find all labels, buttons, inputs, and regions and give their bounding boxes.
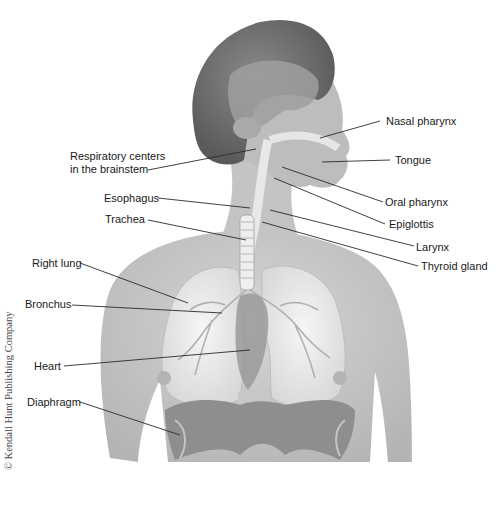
label-larynx: Larynx bbox=[416, 241, 449, 254]
cerebellum bbox=[233, 117, 261, 139]
label-trachea: Trachea bbox=[105, 213, 145, 226]
label-bronchus: Bronchus bbox=[25, 298, 71, 311]
copyright-credit: © Kendall Hunt Publishing Company bbox=[3, 312, 14, 470]
respiratory-diagram: Respiratory centers in the brainstem Eso… bbox=[0, 0, 498, 514]
label-tongue: Tongue bbox=[395, 154, 431, 167]
label-diaphragm: Diaphragm bbox=[27, 396, 81, 409]
label-right-lung: Right lung bbox=[32, 257, 82, 270]
label-nasal-pharynx: Nasal pharynx bbox=[386, 115, 456, 128]
label-respiratory-centers: Respiratory centers in the brainstem bbox=[70, 150, 165, 176]
label-heart: Heart bbox=[34, 360, 61, 373]
label-esophagus: Esophagus bbox=[104, 192, 159, 205]
trachea-shape bbox=[240, 215, 254, 290]
label-epiglottis: Epiglottis bbox=[389, 218, 434, 231]
label-oral-pharynx: Oral pharynx bbox=[385, 196, 448, 209]
label-thyroid-gland: Thyroid gland bbox=[421, 260, 488, 273]
